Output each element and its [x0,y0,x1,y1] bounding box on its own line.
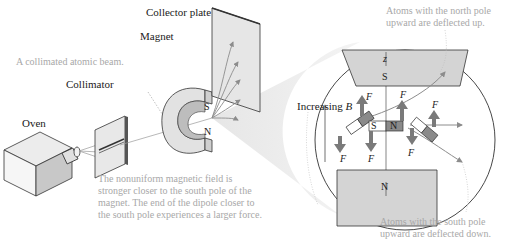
collimator [95,116,128,178]
south-up-note-line: Atoms with the south pole [380,216,491,228]
force-label: F [365,91,373,102]
force-label: F [431,99,439,110]
force-label: F [339,153,347,164]
inset-south-label: S [382,71,388,82]
north-up-note-line: Atoms with the north pole [386,5,491,17]
field-note-line: magnet. The end of the dipole closer to [98,197,262,209]
b-symbol: B [346,100,353,112]
oven-label: Oven [22,117,46,129]
inset-north-label: N [381,181,388,192]
field-note-line: stronger closer to the south pole of the [98,185,262,197]
beam-note: A collimated atomic beam. [16,56,124,68]
z-axis-label: z [382,53,387,64]
magnified-inset [306,30,495,230]
north-up-note-line: upward are deflected up. [386,17,491,29]
field-note-line: The nonuniform magnetic field is [98,173,262,185]
magnet-south-label: S [204,101,210,112]
south-up-note-line: upward are deflected down. [380,228,491,240]
magnet-label: Magnet [140,30,174,42]
dipole-s-label: S [371,120,377,131]
collector-plate [212,8,260,112]
collimator-label: Collimator [66,78,114,90]
field-note: The nonuniform magnetic field is stronge… [98,173,262,221]
magnet [162,88,212,153]
oven [4,132,80,196]
collector-plate-label: Collector plate [146,6,211,18]
increasing-b-label: Increasing B [297,100,352,112]
force-label: F [407,147,415,158]
inset-south-pole [342,50,468,86]
south-up-note: Atoms with the south pole upward are def… [380,216,491,240]
north-up-note: Atoms with the north pole upward are def… [386,5,491,29]
force-label: F [367,153,375,164]
force-label: F [399,89,407,100]
field-note-line: the south pole experiences a larger forc… [98,209,262,221]
magnet-north-label: N [204,126,211,137]
dipole-n-label: N [390,120,397,131]
increasing-b-text: Increasing [297,100,346,112]
